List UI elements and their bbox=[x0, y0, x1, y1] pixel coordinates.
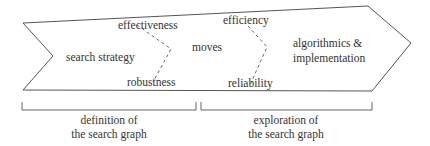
tradeoff-effectiveness: effectiveness bbox=[118, 19, 178, 31]
bracket-definition-line1: definition of bbox=[80, 114, 137, 126]
tradeoff-robustness: robustness bbox=[127, 76, 176, 88]
stage-algorithmics-line2: implementation bbox=[293, 52, 365, 65]
stage-search-strategy: search strategy bbox=[66, 51, 135, 64]
tradeoff-reliability: reliability bbox=[228, 77, 273, 90]
bracket-definition bbox=[22, 102, 196, 110]
tradeoff-separator-1 bbox=[137, 25, 171, 82]
stage-algorithmics-line1: algorithmics & bbox=[293, 37, 362, 50]
tradeoff-efficiency: efficiency bbox=[223, 14, 269, 27]
search-pipeline-diagram: search strategy moves algorithmics & imp… bbox=[0, 0, 430, 146]
bracket-definition-line2: the search graph bbox=[71, 128, 147, 141]
stage-moves: moves bbox=[192, 41, 223, 53]
bracket-exploration-line1: exploration of bbox=[254, 114, 319, 127]
bracket-exploration bbox=[201, 102, 372, 110]
bracket-exploration-line2: the search graph bbox=[248, 128, 324, 141]
